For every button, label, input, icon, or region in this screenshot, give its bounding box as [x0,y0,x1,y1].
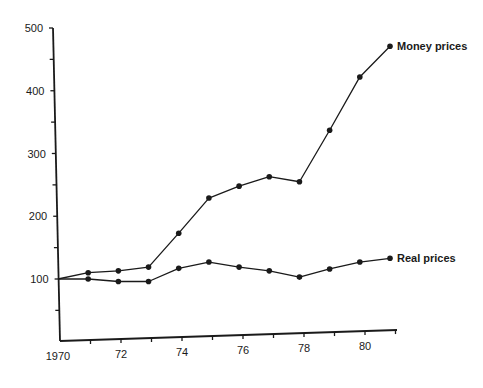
data-point [85,270,91,276]
series-line-real-prices [58,258,390,281]
x-tick-label: 1970 [46,350,70,362]
data-point [357,74,363,80]
data-point [146,264,152,270]
labels-group: 10020030040050019707274767880Money price… [25,22,468,362]
series-label-real-prices: Real prices [397,252,456,264]
data-point [116,279,122,285]
x-tick-label: 80 [359,340,371,352]
data-point [266,174,272,180]
data-point [206,259,212,265]
data-point [176,230,182,236]
y-tick-label: 400 [26,85,44,97]
x-tick-label: 72 [115,348,127,360]
data-point [327,266,333,272]
y-tick-label: 100 [30,273,48,285]
data-point [387,255,393,261]
data-point [176,266,182,272]
x-axis [60,330,397,341]
data-point [236,183,242,189]
data-point [146,279,152,285]
data-point [206,195,212,201]
y-tick-label: 300 [27,148,45,160]
data-point [266,268,272,274]
series-line-money-prices [58,46,390,279]
data-point [297,179,303,185]
axes [49,28,397,344]
data-point [357,259,363,265]
x-tick-label: 76 [237,344,249,356]
data-point [116,268,122,274]
y-tick-label: 200 [29,210,47,222]
data-point [387,43,393,49]
data-point [236,264,242,270]
line-chart: 10020030040050019707274767880Money price… [0,0,483,388]
series-group [58,43,393,284]
data-point [85,276,91,282]
data-point [297,274,303,280]
x-tick-label: 74 [176,346,188,358]
x-tick-label: 78 [298,342,310,354]
y-tick-label: 500 [25,22,43,34]
data-point [327,127,333,133]
series-label-money-prices: Money prices [397,40,467,52]
